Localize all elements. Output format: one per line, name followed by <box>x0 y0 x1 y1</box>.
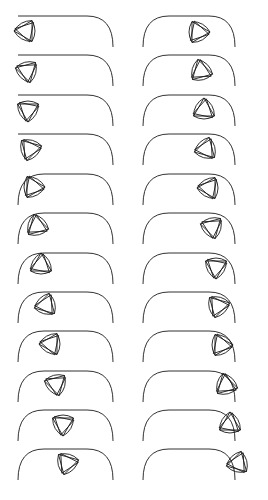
frame-right-3 <box>143 95 235 126</box>
rotated-triangle <box>15 23 34 42</box>
track-path <box>143 95 235 126</box>
track-path <box>143 174 235 205</box>
track-path <box>18 331 113 362</box>
track-path <box>143 292 235 323</box>
frame-right-10 <box>143 371 238 402</box>
frame-right-9 <box>143 331 235 362</box>
track-path <box>18 410 113 441</box>
track-path <box>18 55 113 86</box>
track-path <box>18 134 113 165</box>
track-path <box>143 449 235 480</box>
caption-text: · · · ··· · · · · · <box>14 0 68 4</box>
frame-right-7 <box>143 253 235 284</box>
rotated-triangle <box>55 416 74 435</box>
reuleaux-rolling-diagram: · · · ··· · · · · · <box>0 0 268 500</box>
frame-left-6 <box>18 213 113 244</box>
frame-right-6 <box>143 213 235 244</box>
frame-left-5 <box>18 174 113 205</box>
diagram-canvas <box>0 0 268 500</box>
track-path <box>18 95 113 126</box>
track-path <box>18 292 113 323</box>
frame-left-3 <box>18 95 113 126</box>
frame-left-12 <box>18 449 113 480</box>
frame-right-2 <box>143 55 235 86</box>
frame-left-9 <box>18 331 113 362</box>
frame-right-1 <box>143 16 235 47</box>
rotated-triangle <box>219 413 238 432</box>
frame-left-1 <box>14 16 113 47</box>
track-path <box>143 134 235 165</box>
rotated-triangle <box>25 176 44 195</box>
frame-left-8 <box>18 292 113 323</box>
frame-left-7 <box>18 253 113 284</box>
track-path <box>143 55 235 86</box>
rotated-triangle <box>40 336 59 355</box>
rotated-triangle <box>190 21 209 40</box>
frame-right-12 <box>143 449 247 480</box>
frame-left-2 <box>15 55 113 86</box>
track-path <box>18 371 113 402</box>
track-path <box>18 213 113 244</box>
track-path <box>143 253 235 284</box>
rotated-triangle <box>20 102 39 121</box>
rotated-triangle <box>208 259 227 278</box>
frame-right-5 <box>143 174 235 205</box>
frame-right-8 <box>143 292 235 323</box>
rotated-triangle <box>213 334 232 353</box>
frame-left-4 <box>18 134 113 165</box>
frame-right-11 <box>143 410 240 441</box>
frame-left-10 <box>18 371 113 402</box>
frame-right-4 <box>143 134 235 165</box>
rotated-triangle <box>30 254 49 273</box>
rotated-triangle <box>193 99 212 118</box>
rotated-triangle <box>198 180 217 199</box>
frame-left-11 <box>18 410 113 441</box>
